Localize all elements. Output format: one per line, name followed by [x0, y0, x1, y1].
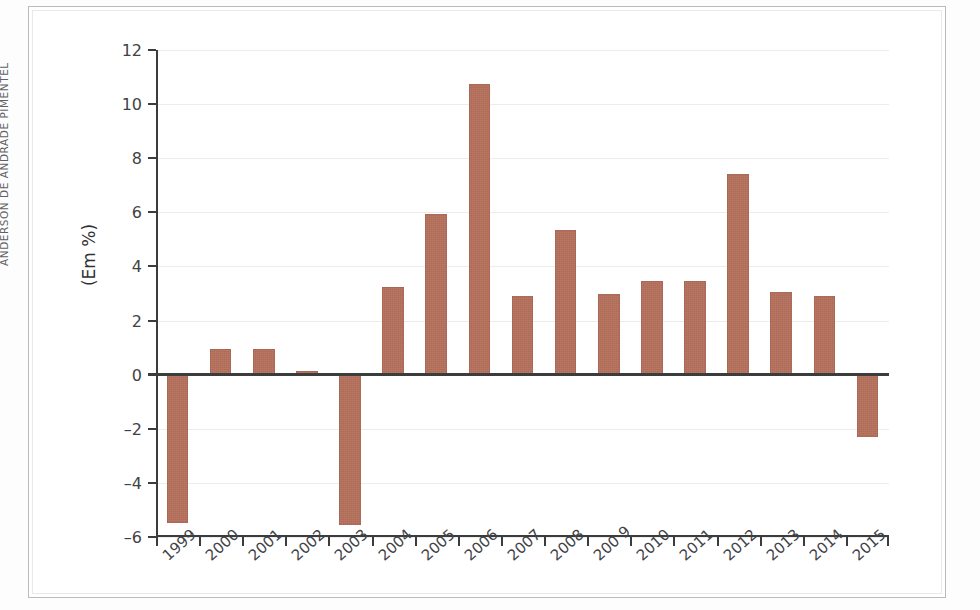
x-axis-tick [501, 537, 503, 546]
bar [641, 281, 663, 374]
chart-page: ANDERSON DE ANDRADE PIMENTEL (Em %) 1210… [0, 0, 980, 610]
x-axis-tick [156, 537, 158, 546]
x-axis-tick [587, 537, 589, 546]
y-axis-title: (Em %) [79, 224, 99, 286]
y-axis-tick [148, 49, 156, 51]
bar [727, 174, 749, 374]
bar [512, 296, 534, 374]
x-axis-tick [673, 537, 675, 546]
y-axis-tick-label: 4 [132, 257, 142, 276]
bar [167, 375, 189, 524]
x-axis-tick [458, 537, 460, 546]
x-axis-tick [242, 537, 244, 546]
y-axis-tick [148, 103, 156, 105]
y-axis-tick-label: 6 [132, 203, 142, 222]
y-axis-tick-label: 8 [132, 149, 142, 168]
x-axis-tick [285, 537, 287, 546]
photo-credit-text: ANDERSON DE ANDRADE PIMENTEL [0, 6, 10, 266]
bar [555, 230, 577, 375]
y-axis-tick [148, 536, 156, 538]
y-axis-tick-label: 12 [122, 41, 142, 60]
y-axis-tick-label: –2 [124, 419, 142, 438]
bar [598, 294, 620, 375]
x-axis-tick [415, 537, 417, 546]
y-axis-tick-label: 0 [132, 365, 142, 384]
bar [857, 375, 879, 437]
bar [425, 214, 447, 375]
bar [210, 349, 232, 375]
x-axis-tick [846, 537, 848, 546]
y-axis-tick-label: 10 [122, 95, 142, 114]
y-axis-tick-label: –4 [124, 473, 142, 492]
x-axis-tick [544, 537, 546, 546]
bar [814, 296, 836, 374]
x-axis-tick [199, 537, 201, 546]
x-axis-tick [803, 537, 805, 546]
bar [253, 349, 275, 375]
bar [684, 281, 706, 374]
bar [469, 84, 491, 375]
plot-area: 121086420–2–4–6 199920002001200220032004… [156, 50, 889, 537]
x-axis-tick [372, 537, 374, 546]
bar [382, 287, 404, 375]
x-axis-tick [630, 537, 632, 546]
y-axis-tick [148, 265, 156, 267]
y-axis-tick [148, 157, 156, 159]
y-axis-tick-label: 2 [132, 311, 142, 330]
y-axis-tick [148, 211, 156, 213]
x-axis-tick [887, 537, 889, 546]
bar-series [156, 50, 889, 537]
y-axis-tick [148, 428, 156, 430]
x-axis-tick [328, 537, 330, 546]
y-axis-tick-label: –6 [124, 528, 142, 547]
bar [339, 375, 361, 525]
bar [770, 292, 792, 375]
y-axis-tick [148, 482, 156, 484]
x-axis-tick [760, 537, 762, 546]
y-axis-tick [148, 320, 156, 322]
x-axis-tick [717, 537, 719, 546]
zero-baseline [148, 373, 889, 376]
